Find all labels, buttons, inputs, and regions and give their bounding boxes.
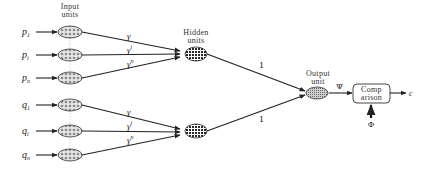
input-label-p1: p1 xyxy=(21,26,30,38)
phi-label: Φ xyxy=(368,120,375,129)
input-node xyxy=(58,149,82,161)
hidden-node xyxy=(185,47,207,61)
comparison-label-line: arison xyxy=(361,93,382,102)
weight-labels: γ γi γn γ γi γn xyxy=(127,31,134,145)
input-node xyxy=(58,125,82,137)
weight-gamma-n: γn xyxy=(127,134,134,145)
hidden-units-heading: Hidden units xyxy=(183,28,208,45)
hidden-nodes xyxy=(185,47,207,138)
output-node xyxy=(306,87,328,99)
output-unit-heading: Output unit xyxy=(306,69,330,86)
input-units-heading: Input units xyxy=(61,2,80,19)
input-labels: p1 pi pn q1 qi qn xyxy=(21,26,30,161)
input-node xyxy=(58,49,82,61)
input-node xyxy=(58,26,82,38)
weight-gamma: γ xyxy=(127,31,131,41)
hidden-output-connections xyxy=(207,54,305,131)
weight-gamma: γ xyxy=(127,107,131,117)
weight-gamma-i: γi xyxy=(127,120,133,131)
input-label-qn: qn xyxy=(22,149,30,161)
input-node xyxy=(58,99,82,111)
heading-line: unit xyxy=(311,77,325,86)
input-label-pi: pi xyxy=(21,49,29,61)
input-label-qi: qi xyxy=(22,125,29,137)
hidden-output-weight-top: 1 xyxy=(259,61,264,70)
heading-line: units xyxy=(187,36,204,45)
input-arrows xyxy=(36,32,57,155)
hidden-node xyxy=(185,124,207,138)
psi-label: Ψ xyxy=(336,82,343,91)
heading-line: units xyxy=(61,10,78,19)
comparison-box: Comp arison xyxy=(353,84,390,103)
weight-gamma-i: γi xyxy=(127,44,133,55)
input-node xyxy=(58,72,82,84)
input-label-q1: q1 xyxy=(22,99,30,111)
neural-network-diagram: Input units Hidden units Output unit p1 … xyxy=(0,0,436,169)
input-label-pn: pn xyxy=(21,72,30,84)
hidden-output-weight-bottom: 1 xyxy=(259,115,264,124)
result-label: c xyxy=(409,89,413,98)
